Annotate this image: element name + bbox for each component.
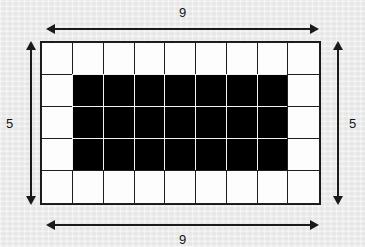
- grid-cell-r3-c1: [41, 106, 73, 140]
- grid-cell-r1-c2: [72, 42, 104, 76]
- grid-cell-r3-c4: [134, 106, 166, 140]
- grid-cell-r1-c7: [226, 42, 258, 76]
- grid-cell-r5-c7: [226, 170, 258, 204]
- arrowhead-right-icon: [310, 220, 319, 230]
- grid-cell-r2-c3: [103, 74, 135, 108]
- grid-cell-r2-c4: [134, 74, 166, 108]
- unit-square-grid: [42, 43, 319, 203]
- dimension-line: [30, 48, 32, 198]
- grid-cell-r4-c4: [134, 138, 166, 172]
- grid-cell-r2-c6: [195, 74, 227, 108]
- grid-cell-r2-c9: [287, 74, 319, 108]
- grid-cell-r4-c7: [226, 138, 258, 172]
- grid-cell-r5-c9: [287, 170, 319, 204]
- grid-cell-r5-c3: [103, 170, 135, 204]
- grid-cell-r3-c6: [195, 106, 227, 140]
- grid-cell-r2-c7: [226, 74, 258, 108]
- grid-cell-r1-c8: [257, 42, 289, 76]
- grid-cell-r1-c6: [195, 42, 227, 76]
- grid-cell-r1-c1: [41, 42, 73, 76]
- grid-cell-r5-c8: [257, 170, 289, 204]
- grid-cell-r3-c5: [164, 106, 196, 140]
- grid-cell-r4-c6: [195, 138, 227, 172]
- grid-cell-r3-c2: [72, 106, 104, 140]
- arrowhead-down-icon: [333, 196, 343, 205]
- rectangle-outline: [40, 41, 321, 205]
- grid-cell-r5-c4: [134, 170, 166, 204]
- grid-cell-r4-c9: [287, 138, 319, 172]
- dimension-left: 5: [24, 41, 38, 205]
- grid-cell-r3-c7: [226, 106, 258, 140]
- grid-cell-r4-c3: [103, 138, 135, 172]
- grid-cell-r4-c8: [257, 138, 289, 172]
- grid-cell-r2-c2: [72, 74, 104, 108]
- dimension-top: 9: [46, 22, 319, 36]
- grid-cell-r3-c9: [287, 106, 319, 140]
- grid-cell-r4-c5: [164, 138, 196, 172]
- dimension-bottom: 9: [46, 218, 319, 232]
- grid-cell-r5-c5: [164, 170, 196, 204]
- dimension-label-right: 5: [349, 117, 356, 130]
- dimension-right: 5: [331, 41, 345, 205]
- diagram-canvas: 9 9 5 5: [0, 0, 365, 247]
- grid-cell-r2-c5: [164, 74, 196, 108]
- grid-cell-r1-c5: [164, 42, 196, 76]
- grid-cell-r4-c2: [72, 138, 104, 172]
- grid-cell-r5-c6: [195, 170, 227, 204]
- grid-cell-r5-c2: [72, 170, 104, 204]
- grid-cell-r1-c3: [103, 42, 135, 76]
- grid-cell-r2-c1: [41, 74, 73, 108]
- grid-cell-r5-c1: [41, 170, 73, 204]
- dimension-line: [337, 48, 339, 198]
- dimension-label-left: 5: [6, 117, 13, 130]
- grid-cell-r1-c9: [287, 42, 319, 76]
- grid-cell-r1-c4: [134, 42, 166, 76]
- dimension-label-top: 9: [46, 6, 319, 19]
- dimension-line: [53, 28, 312, 30]
- grid-cell-r3-c3: [103, 106, 135, 140]
- grid-cell-r4-c1: [41, 138, 73, 172]
- dimension-label-bottom: 9: [46, 233, 319, 246]
- arrowhead-right-icon: [310, 24, 319, 34]
- arrowhead-down-icon: [26, 196, 36, 205]
- grid-cell-r3-c8: [257, 106, 289, 140]
- dimension-line: [53, 224, 312, 226]
- grid-cell-r2-c8: [257, 74, 289, 108]
